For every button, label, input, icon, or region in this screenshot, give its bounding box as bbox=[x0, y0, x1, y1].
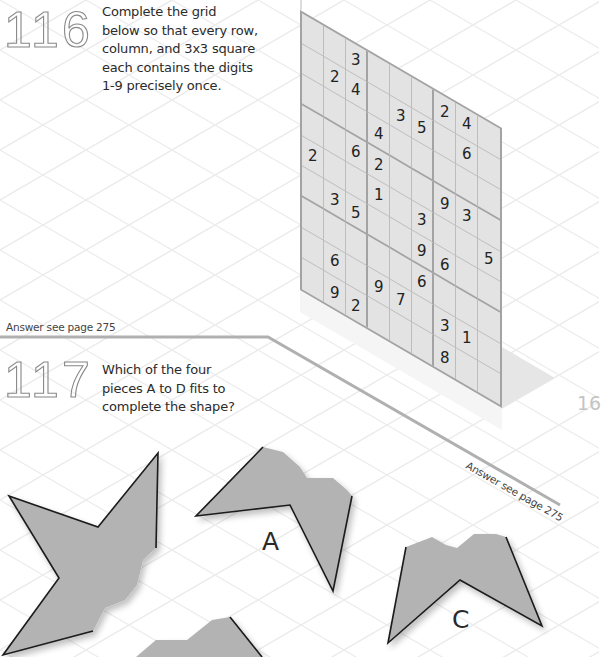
target-shape bbox=[3, 453, 158, 655]
piece-d bbox=[136, 617, 262, 657]
piece-label-c: C bbox=[452, 605, 469, 634]
piece-label-a: A bbox=[262, 527, 279, 556]
piece-a bbox=[196, 447, 352, 591]
